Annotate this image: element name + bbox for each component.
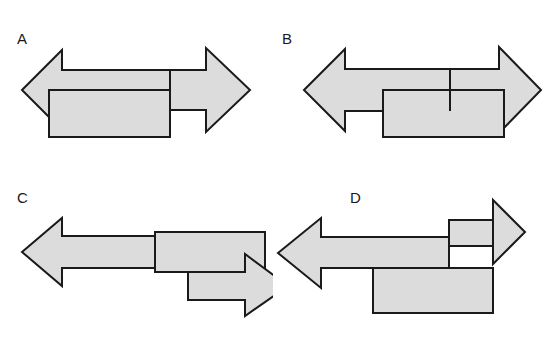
figure-canvas: A B C D xyxy=(0,0,547,360)
panel-d: D xyxy=(273,180,547,360)
panel-b-diagram xyxy=(273,0,547,180)
panel-c: C xyxy=(0,180,273,360)
panel-b: B xyxy=(273,0,547,180)
panel-a: A xyxy=(0,0,273,180)
panel-a-diagram xyxy=(0,0,273,180)
panel-a-rectangle xyxy=(49,90,170,137)
panel-d-diagram xyxy=(273,180,547,360)
panel-d-right-arrow xyxy=(449,200,525,264)
panel-d-rectangle xyxy=(373,268,493,313)
panel-b-rectangle xyxy=(383,90,504,137)
panel-c-diagram xyxy=(0,180,273,360)
